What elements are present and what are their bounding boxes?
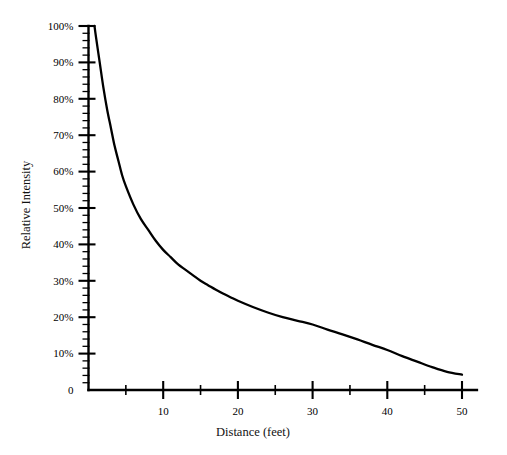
x-axis-tick-label: 30 [307, 405, 319, 417]
y-axis-tick-label: 40% [53, 238, 73, 250]
y-axis-title: Relative Intensity [19, 160, 33, 249]
y-axis-tick-label: 80% [53, 93, 73, 105]
y-axis-tick-label: 50% [53, 202, 73, 214]
y-axis-tick-label: 20% [53, 311, 73, 323]
x-axis-tick-label: 10 [158, 405, 170, 417]
y-axis-tick-label: 10% [53, 347, 73, 359]
x-axis-title: Distance (feet) [216, 425, 290, 439]
plot-background [0, 0, 507, 455]
y-axis-tick-label: 60% [53, 165, 73, 177]
y-axis-tick-label: 70% [53, 129, 73, 141]
chart-figure: 010%20%30%40%50%60%70%80%90%100% 1020304… [0, 0, 507, 455]
x-axis-tick-label: 40 [382, 405, 394, 417]
x-axis-tick-label: 50 [457, 405, 469, 417]
relative-intensity-vs-distance-chart: 010%20%30%40%50%60%70%80%90%100% 1020304… [0, 0, 507, 455]
y-axis-tick-label: 30% [53, 275, 73, 287]
y-axis-tick-label: 100% [48, 20, 74, 32]
x-axis-tick-label: 20 [232, 405, 244, 417]
y-axis-tick-label: 90% [53, 56, 73, 68]
y-axis-tick-label: 0 [68, 384, 74, 396]
